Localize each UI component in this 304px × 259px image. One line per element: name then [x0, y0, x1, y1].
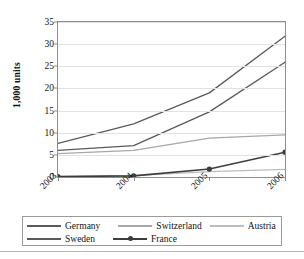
y-axis-title: 1,000 units — [12, 50, 22, 120]
legend-label: Switzerland — [156, 221, 201, 231]
y-tick-label: 30 — [32, 39, 54, 49]
gridline — [58, 155, 285, 156]
legend-swatch-icon — [27, 221, 61, 231]
plot-area — [57, 21, 286, 178]
y-tick-label: 10 — [32, 128, 54, 138]
gridline — [58, 88, 285, 89]
y-tick-label: 5 — [32, 150, 54, 160]
series-lines — [58, 22, 285, 177]
series-line-france — [58, 152, 285, 176]
legend-row: GermanySwitzerlandAustria — [27, 219, 277, 232]
gridline — [58, 44, 285, 45]
gridline — [58, 111, 285, 112]
series-line-sweden — [58, 62, 285, 150]
bottom-divider — [0, 251, 304, 252]
data-point-france — [207, 166, 212, 171]
legend-item-germany[interactable]: Germany — [27, 221, 100, 231]
gridline — [58, 22, 285, 23]
series-line-germany — [58, 36, 285, 143]
axis-baseline — [58, 177, 285, 178]
legend-item-austria[interactable]: Austria — [210, 221, 276, 231]
legend-label: France — [151, 234, 177, 244]
legend-swatch-icon — [27, 234, 61, 244]
x-tick-mark — [134, 178, 135, 181]
y-tick-label: 20 — [32, 83, 54, 93]
y-tick-label: 35 — [32, 17, 54, 27]
x-tick-mark — [209, 178, 210, 181]
x-tick-mark — [58, 178, 59, 181]
legend-label: Sweden — [65, 234, 95, 244]
y-tick-label: 15 — [32, 106, 54, 116]
legend-label: Austria — [248, 221, 276, 231]
series-line-switzerland — [58, 135, 285, 154]
x-tick-mark — [285, 178, 286, 181]
legend: GermanySwitzerlandAustria SwedenFrance — [22, 216, 282, 246]
legend-item-france[interactable]: France — [113, 234, 177, 244]
line-chart: 1,000 units 05101520253035 2003200420052… — [0, 0, 304, 259]
legend-swatch-icon — [210, 221, 244, 231]
legend-swatch-icon — [118, 221, 152, 231]
y-tick-label: 25 — [32, 61, 54, 71]
legend-label: Germany — [65, 221, 100, 231]
legend-item-switzerland[interactable]: Switzerland — [118, 221, 201, 231]
x-axis-labels: 2003200420052006 — [57, 180, 286, 216]
y-axis-ticks: 05101520253035 — [28, 21, 54, 178]
legend-swatch-icon — [113, 234, 147, 244]
legend-row: SwedenFrance — [27, 232, 277, 245]
gridline — [58, 66, 285, 67]
legend-item-sweden[interactable]: Sweden — [27, 234, 95, 244]
gridline — [58, 133, 285, 134]
